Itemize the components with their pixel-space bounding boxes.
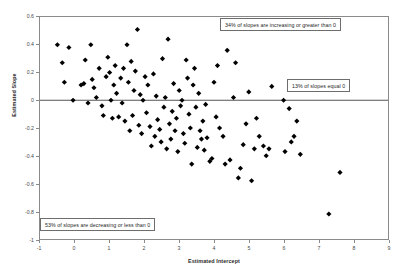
data-point — [104, 74, 109, 79]
data-point — [241, 142, 246, 147]
data-point — [147, 124, 152, 129]
x-tick-label: 6 — [283, 245, 286, 251]
data-point — [172, 128, 177, 133]
x-tick-mark — [144, 240, 145, 243]
x-tick-mark — [284, 240, 285, 243]
data-point — [193, 105, 198, 110]
y-tick-mark — [36, 156, 39, 157]
data-point — [105, 55, 110, 60]
data-point — [225, 48, 230, 53]
data-point — [160, 56, 165, 61]
y-tick-label: -0.4 — [14, 153, 34, 159]
data-point — [257, 134, 262, 139]
data-point — [110, 116, 115, 121]
x-axis-title: Estimated Intercept — [39, 258, 389, 264]
data-point — [140, 98, 145, 103]
data-point — [70, 98, 75, 103]
data-point — [178, 103, 183, 108]
data-point — [154, 94, 159, 99]
x-tick-mark — [179, 240, 180, 243]
data-point — [157, 127, 162, 132]
y-tick-label: -0.6 — [14, 181, 34, 187]
x-tick-label: 1 — [108, 245, 111, 251]
data-point — [129, 59, 134, 64]
data-point — [298, 152, 303, 157]
data-point — [254, 116, 259, 121]
data-point — [337, 170, 342, 175]
data-point — [217, 125, 222, 130]
scatter-chart: 0.60.40.20-0.2-0.4-0.6-0.8-1 -1012345678… — [0, 0, 402, 275]
data-point — [202, 148, 207, 153]
x-tick-mark — [109, 240, 110, 243]
data-point — [159, 139, 164, 144]
data-point — [127, 128, 132, 133]
data-point — [152, 134, 157, 139]
x-tick-mark — [39, 240, 40, 243]
data-point — [197, 128, 202, 133]
data-point — [139, 131, 144, 136]
data-point — [220, 134, 225, 139]
annotation-equal-slopes: 13% of slopes equal 0 — [287, 79, 350, 92]
data-point — [196, 91, 201, 96]
x-tick-mark — [249, 240, 250, 243]
data-point — [170, 109, 175, 114]
x-tick-mark — [214, 240, 215, 243]
data-point — [120, 100, 125, 105]
data-point — [282, 149, 287, 154]
x-tick-label: 9 — [388, 245, 391, 251]
data-point — [185, 75, 190, 80]
data-point — [90, 77, 95, 82]
data-point — [182, 141, 187, 146]
x-tick-mark — [389, 240, 390, 243]
y-axis-title: Estimated Slope — [11, 59, 17, 131]
data-point — [155, 117, 160, 122]
x-tick-label: 7 — [318, 245, 321, 251]
data-point — [223, 161, 228, 166]
data-point — [211, 80, 216, 85]
data-point — [121, 66, 126, 71]
data-point — [165, 37, 170, 42]
data-point — [238, 166, 243, 171]
data-point — [199, 137, 204, 142]
data-point — [133, 69, 138, 74]
data-point — [175, 149, 180, 154]
data-point — [116, 114, 121, 119]
data-point — [174, 116, 179, 121]
data-point — [181, 131, 186, 136]
x-tick-label: 8 — [353, 245, 356, 251]
data-point — [203, 102, 208, 107]
x-tick-mark — [354, 240, 355, 243]
data-point — [138, 92, 143, 97]
data-point — [243, 121, 248, 126]
data-point — [192, 66, 197, 71]
data-point — [88, 42, 93, 47]
data-point — [130, 113, 135, 118]
y-tick-label: 0.6 — [14, 13, 34, 19]
data-point — [167, 121, 172, 126]
data-point — [200, 118, 205, 123]
y-tick-label: 0 — [14, 97, 34, 103]
annotation-decreasing-slopes: 53% of slopes are decreasing or less tha… — [40, 218, 155, 231]
data-point — [126, 80, 131, 85]
data-point — [151, 71, 156, 76]
data-point — [161, 105, 166, 110]
data-point — [179, 98, 184, 103]
data-point — [144, 110, 149, 115]
data-point — [249, 178, 254, 183]
x-tick-mark — [319, 240, 320, 243]
data-point — [122, 118, 127, 123]
data-point — [131, 88, 136, 93]
x-tick-label: 0 — [73, 245, 76, 251]
data-point — [233, 60, 238, 65]
data-point — [287, 106, 292, 111]
data-point — [289, 139, 294, 144]
data-point — [66, 45, 71, 50]
data-point — [171, 81, 176, 86]
data-point — [204, 135, 209, 140]
data-point — [118, 75, 123, 80]
data-point — [143, 74, 148, 79]
data-point — [135, 27, 140, 32]
x-tick-label: -1 — [37, 245, 42, 251]
data-point — [136, 123, 141, 128]
data-point — [124, 42, 129, 47]
